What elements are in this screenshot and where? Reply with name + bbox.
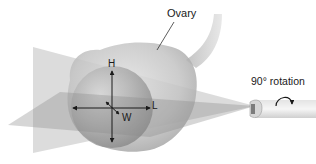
ovarian-ligament bbox=[186, 14, 222, 68]
width-label: W bbox=[122, 113, 131, 123]
ovary-label: Ovary bbox=[167, 8, 196, 19]
ovary-ultrasound-diagram: Ovary 90° rotation H L W bbox=[0, 0, 316, 164]
rotation-label: 90° rotation bbox=[251, 76, 305, 87]
height-label: H bbox=[108, 59, 115, 69]
ultrasound-transducer bbox=[250, 100, 316, 118]
length-label: L bbox=[152, 101, 158, 111]
